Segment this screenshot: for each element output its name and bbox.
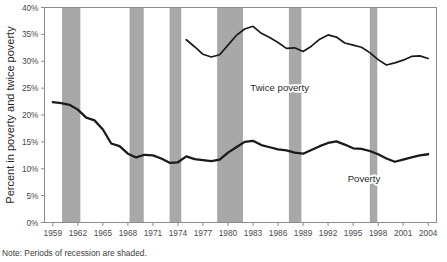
x-tick-label: 1959 xyxy=(44,228,63,238)
x-tick-label: 1986 xyxy=(269,228,288,238)
y-axis-title: Percent in poverty and twice poverty xyxy=(4,26,16,204)
y-axis-group: 0%5%10%15%20%25%30%35%40% xyxy=(22,3,45,228)
x-tick-label: 1971 xyxy=(144,228,163,238)
y-tick-label: 15% xyxy=(22,137,39,147)
x-tick-label: 1968 xyxy=(119,228,138,238)
y-tick-label: 30% xyxy=(22,56,39,66)
recession-band xyxy=(62,8,80,223)
recession-band xyxy=(370,8,378,223)
poverty-chart: 0%5%10%15%20%25%30%35%40%195919621965196… xyxy=(0,0,447,262)
series-annotation-poverty: Poverty xyxy=(348,173,381,184)
x-tick-label: 1962 xyxy=(69,228,88,238)
x-tick-label: 1983 xyxy=(244,228,263,238)
recession-band xyxy=(289,8,302,223)
x-tick-label: 1980 xyxy=(219,228,238,238)
x-tick-label: 1977 xyxy=(194,228,213,238)
x-tick-label: 1995 xyxy=(344,228,363,238)
x-axis-group: 1959196219651968197119741977198019831986… xyxy=(44,223,438,239)
y-tick-label: 25% xyxy=(22,83,39,93)
recession-band xyxy=(130,8,144,223)
y-tick-label: 0% xyxy=(27,218,40,228)
y-tick-label: 20% xyxy=(22,110,39,120)
recession-band xyxy=(217,8,243,223)
recession-band xyxy=(170,8,182,223)
series-annotation-twice-poverty: Twice poverty xyxy=(250,82,309,93)
x-tick-label: 1974 xyxy=(169,228,188,238)
y-tick-label: 5% xyxy=(27,191,40,201)
x-tick-label: 1998 xyxy=(369,228,388,238)
y-tick-label: 10% xyxy=(22,164,39,174)
x-tick-label: 1989 xyxy=(294,228,313,238)
y-tick-label: 40% xyxy=(22,3,39,13)
x-tick-label: 2004 xyxy=(419,228,438,238)
y-tick-label: 35% xyxy=(22,29,39,39)
poverty-trend-figure: 0%5%10%15%20%25%30%35%40%195919621965196… xyxy=(0,0,447,262)
x-tick-label: 1992 xyxy=(319,228,338,238)
x-tick-label: 2001 xyxy=(394,228,413,238)
x-tick-label: 1965 xyxy=(94,228,113,238)
figure-note: Note: Periods of recession are shaded. xyxy=(2,248,147,258)
